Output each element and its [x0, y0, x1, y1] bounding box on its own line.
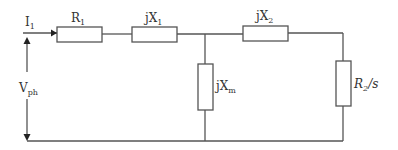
label-jxm: jXm	[214, 79, 236, 95]
label-jx2: jX2	[254, 9, 273, 25]
circuit-diagram: I1 R1 jX1 jX2 jXm R2/s Vph	[0, 0, 398, 150]
label-voltage-vph: Vph	[18, 81, 38, 97]
reactance-x1	[132, 27, 177, 42]
voltage-arrowhead-up-icon	[24, 37, 31, 44]
resistor-r1	[57, 27, 102, 42]
reactance-xm	[198, 64, 213, 110]
voltage-arrowhead-down-icon	[24, 134, 31, 141]
label-current-i1: I1	[25, 15, 35, 31]
label-r2-over-s: R2/s	[353, 77, 378, 93]
label-r1: R1	[71, 11, 85, 27]
label-jx1: jX1	[143, 11, 162, 27]
reactance-x2	[243, 26, 288, 41]
resistor-r2-over-s	[336, 61, 351, 106]
current-arrowhead-icon	[51, 30, 57, 37]
